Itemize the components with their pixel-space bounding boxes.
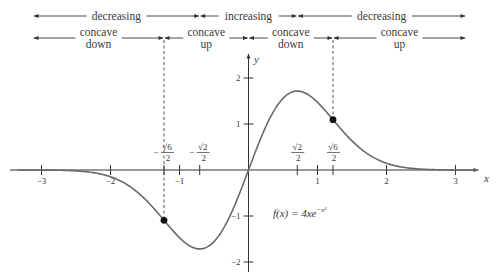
concavity-band: concaveup <box>165 26 248 51</box>
svg-text:2: 2 <box>201 153 206 163</box>
svg-text:2: 2 <box>332 153 337 163</box>
svg-text:−: − <box>153 147 158 157</box>
inflection-point <box>161 217 168 224</box>
y-tick-label: 2 <box>236 73 241 83</box>
svg-text:−: − <box>189 147 194 157</box>
x-tick-label: 3 <box>453 176 458 186</box>
y-tick-label: 1 <box>236 119 241 129</box>
x-tick-label: 2 <box>384 176 389 186</box>
x-tick-label: −1 <box>175 176 185 186</box>
axes: x y <box>10 53 489 272</box>
svg-text:decreasing: decreasing <box>357 10 406 23</box>
inflection-point <box>330 116 337 123</box>
fraction-label: −√22 <box>189 142 210 163</box>
svg-text:2: 2 <box>296 153 301 163</box>
svg-text:concave: concave <box>381 26 419 38</box>
svg-text:√2: √2 <box>198 142 207 152</box>
concavity-band: concaveup <box>334 26 465 51</box>
fraction-label: −√62 <box>153 142 174 163</box>
svg-text:concave: concave <box>187 26 225 38</box>
function-label: f(x) = 4xe−x² <box>273 206 327 220</box>
svg-text:increasing: increasing <box>225 10 273 23</box>
x-tick-label: −3 <box>37 176 47 186</box>
interval-annotations: decreasingincreasingdecreasingconcavedow… <box>34 10 465 51</box>
svg-text:2: 2 <box>166 153 171 163</box>
y-axis-label: y <box>253 53 259 65</box>
svg-text:concave: concave <box>80 26 118 38</box>
svg-text:down: down <box>86 38 112 50</box>
svg-text:concave: concave <box>272 26 310 38</box>
svg-text:√6: √6 <box>162 142 172 152</box>
monotonicity-band: decreasing <box>298 10 465 23</box>
monotonicity-band: decreasing <box>34 10 199 23</box>
svg-text:up: up <box>200 38 212 51</box>
fraction-label: √22 <box>291 142 304 163</box>
svg-text:√2: √2 <box>293 142 302 152</box>
fraction-label: √62 <box>327 142 340 163</box>
x-axis-label: x <box>483 172 489 184</box>
concavity-band: concavedown <box>250 26 333 50</box>
concavity-band: concavedown <box>34 26 163 50</box>
svg-text:decreasing: decreasing <box>92 10 141 23</box>
x-tick-label: 1 <box>315 176 320 186</box>
function-plot: decreasingincreasingdecreasingconcavedow… <box>0 0 501 275</box>
monotonicity-band: increasing <box>201 10 297 23</box>
svg-text:√6: √6 <box>328 142 338 152</box>
svg-text:up: up <box>394 38 406 51</box>
svg-text:down: down <box>278 38 304 50</box>
y-tick-label: −2 <box>231 257 241 267</box>
